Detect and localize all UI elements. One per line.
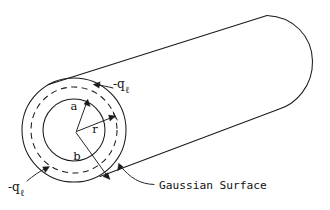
- cylinder-top-edge: [49, 16, 268, 85]
- cylinder-bottom-edge: [100, 110, 278, 177]
- coaxial-cable-diagram: a r b -qℓ: [0, 0, 330, 210]
- inner-charge-leader-line: [27, 168, 47, 181]
- label-a: a: [71, 99, 78, 113]
- outer-charge-label: -qℓ: [113, 77, 130, 95]
- svg-text:-qℓ: -qℓ: [113, 77, 130, 95]
- cross-section-circles: [22, 78, 126, 182]
- radius-a-line: [77, 102, 88, 132]
- radius-r-indicator: r: [77, 112, 118, 136]
- gaussian-surface-leader: [118, 163, 154, 184]
- figure-canvas: a r b -qℓ: [0, 0, 330, 210]
- radius-a-indicator: a: [71, 99, 91, 131]
- label-b: b: [73, 149, 80, 163]
- outer-conductor-circle: [22, 78, 126, 182]
- label-r: r: [92, 122, 98, 136]
- svg-text:-qℓ: -qℓ: [8, 180, 25, 198]
- gaussian-surface-leader-line: [121, 166, 155, 185]
- cylinder-body: [49, 16, 313, 177]
- gaussian-surface-label: Gaussian Surface: [159, 179, 267, 192]
- inner-charge-symbol: -q: [8, 180, 20, 194]
- radius-b-arrowhead: [103, 173, 110, 180]
- outer-charge-subscript: ℓ: [125, 84, 130, 95]
- inner-charge-subscript: ℓ: [20, 187, 25, 198]
- cylinder-far-cap: [267, 16, 313, 110]
- radius-r-arrowhead: [109, 115, 116, 121]
- outer-charge-symbol: -q: [113, 77, 125, 91]
- inner-charge-label: -qℓ: [8, 180, 25, 198]
- gaussian-surface-arrowhead: [118, 163, 124, 170]
